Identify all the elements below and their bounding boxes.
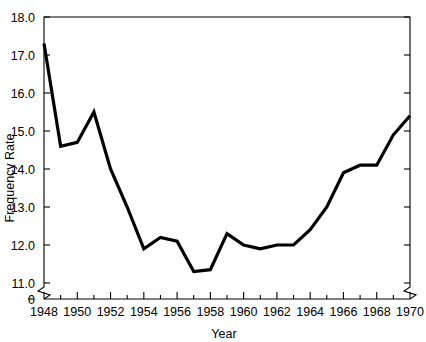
chart-container: 11.012.013.014.015.016.017.018.00 194819… (0, 0, 426, 342)
x-tick-label: 1964 (296, 305, 324, 319)
x-tick-label: 1954 (130, 305, 158, 319)
y-axis-title: Frequency Rate (3, 133, 17, 222)
x-tick-label: 1960 (230, 305, 258, 319)
data-series (44, 44, 410, 272)
line-chart: 11.012.013.014.015.016.017.018.00 194819… (0, 0, 426, 342)
x-tick-label: 1958 (196, 305, 224, 319)
plot-frame (44, 17, 410, 283)
x-tick-label: 1966 (330, 305, 358, 319)
y-tick-label: 16.0 (11, 87, 35, 101)
y-tick-label: 12.0 (11, 239, 35, 253)
x-tick-label: 1950 (63, 305, 91, 319)
x-tick-label: 1970 (396, 305, 424, 319)
x-tick-label: 1952 (97, 305, 125, 319)
y-tick-label: 17.0 (11, 49, 35, 63)
x-axis-title: Year (211, 327, 236, 341)
x-tick-label: 1948 (30, 305, 58, 319)
tick-marks (44, 17, 410, 299)
y-tick-label: 18.0 (11, 11, 35, 25)
x-tick-labels: 1948195019521954195619581960196219641966… (30, 305, 424, 319)
y-tick-label: 11.0 (12, 277, 35, 291)
x-tick-label: 1968 (363, 305, 391, 319)
series-line (44, 44, 410, 272)
x-tick-label: 1956 (163, 305, 191, 319)
axes (28, 17, 416, 299)
x-tick-label: 1962 (263, 305, 291, 319)
